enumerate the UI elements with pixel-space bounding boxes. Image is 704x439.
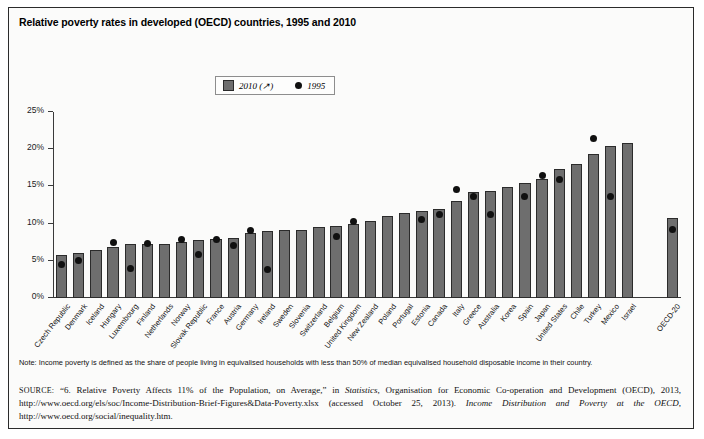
y-tick: 15% [48,185,53,186]
legend-label-2010: 2010 (↗) [239,81,273,91]
chart-legend: 2010 (↗) 1995 [215,76,335,95]
y-tick: 25% [48,111,53,112]
y-tick-label: 25% [27,105,44,115]
y-tick: 20% [48,148,53,149]
bar-slot [605,112,616,298]
y-tick: 5% [48,260,53,261]
source-text-1: “6. Relative Poverty Affects 11% of the … [60,385,345,395]
bar [159,244,170,298]
x-tick-label: Israel [619,302,638,322]
bar [193,240,204,298]
y-tick: 10% [48,223,53,224]
bar [90,250,101,298]
bar-swatch-icon [223,80,234,91]
bar-slot [622,112,633,298]
bar-slot [296,112,307,298]
dot-marker [436,211,443,218]
x-tick-label: Korea [498,302,518,324]
bar [554,169,565,298]
bar-slot [159,112,170,298]
bar [536,179,547,298]
y-tick-label: 5% [32,254,44,264]
bar-slot [667,112,678,298]
dot-marker [213,236,220,243]
dot-marker [669,226,676,233]
bar-slot [228,112,239,298]
y-tick-label: 15% [27,179,44,189]
bar [313,227,324,298]
plot-area: 0%5%10%15%20%25% Czech RepublicDenmarkIc… [53,112,681,298]
bar [279,230,290,298]
dot-marker [144,240,151,247]
bar [588,154,599,298]
source-block: SOURCE: “6. Relative Poverty Affects 11%… [19,384,681,422]
bar-slot [313,112,324,298]
bar [176,242,187,298]
bar-slot [330,112,341,298]
bar-slot [416,112,427,298]
bar-slot [107,112,118,298]
bar [502,187,513,298]
source-italic-title: Income Distribution and Poverty at the O… [466,398,679,408]
bar [245,233,256,298]
y-axis [53,112,54,298]
dot-marker [230,242,237,249]
note-block: Note: Income poverty is defined as the s… [19,358,681,368]
y-tick-label: 20% [27,142,44,152]
dot-marker [521,193,528,200]
legend-item-2010: 2010 (↗) [223,80,273,91]
bar [399,213,410,298]
bar [142,244,153,298]
bar [622,143,633,298]
dot-swatch-icon [295,82,302,89]
bar-slot [399,112,410,298]
dot-marker [453,186,460,193]
bar-slot [90,112,101,298]
bar-slot [176,112,187,298]
dot-marker [333,233,340,240]
bar-slot [279,112,290,298]
y-tick-label: 0% [32,291,44,301]
bar [605,146,616,298]
source-label: SOURCE: [19,386,54,395]
bar [107,247,118,298]
x-tick-label: OECD-20 [655,302,682,333]
bar-slot [193,112,204,298]
bar [416,211,427,298]
bar [365,221,376,298]
bar-slot [571,112,582,298]
bar-slot [554,112,565,298]
dot-marker [195,251,202,258]
chart-panel: 2010 (↗) 1995 0%5%10%15%20%25% Czech Rep… [19,34,685,354]
bar-slot [485,112,496,298]
bar [571,164,582,298]
bar [519,183,530,298]
x-tick-label: Mexico [599,302,621,327]
figure-frame: Relative poverty rates in developed (OEC… [8,7,694,429]
legend-item-1995: 1995 [295,81,325,91]
bar-slot [519,112,530,298]
dot-marker [127,265,134,272]
dot-marker [539,172,546,179]
bar [262,231,273,298]
bar-slot [142,112,153,298]
bar-slot [536,112,547,298]
bar [348,224,359,298]
note-text: Note: Income poverty is defined as the s… [19,358,681,368]
bar-slot [365,112,376,298]
bar-slot [56,112,67,298]
bar-slot [245,112,256,298]
bar [468,192,479,298]
bar-slot [73,112,84,298]
bar [382,216,393,298]
bar [451,201,462,298]
bar-slot [468,112,479,298]
y-tick: 0% [48,297,53,298]
bar-slot [382,112,393,298]
source-italic-statistics: Statistics [345,385,378,395]
bar [433,209,444,298]
y-tick-label: 10% [27,217,44,227]
dot-marker [556,176,563,183]
bar-slot [210,112,221,298]
bar-slot [348,112,359,298]
